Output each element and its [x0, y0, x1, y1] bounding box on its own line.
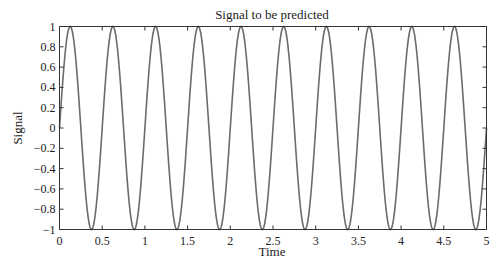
y-tick-label: 0.2	[41, 101, 56, 115]
x-tick-label: 5	[484, 234, 490, 248]
y-tick-label: −1	[43, 223, 56, 237]
x-tick-label: 3	[313, 234, 319, 248]
y-tick-label: 1	[50, 20, 56, 34]
y-tick-label: 0.8	[41, 40, 56, 54]
y-axis-label: Signal	[10, 111, 25, 145]
x-tick-label: 3.5	[351, 234, 366, 248]
y-tick-label: 0.6	[41, 60, 56, 74]
signal-line	[60, 27, 487, 230]
y-tick-label: −0.4	[34, 162, 56, 176]
y-tick-label: 0	[50, 121, 56, 135]
x-tick-label: 0	[57, 234, 63, 248]
x-axis-label: Time	[259, 244, 286, 259]
x-tick-label: 4.5	[436, 234, 451, 248]
x-tick-label: 4	[398, 234, 404, 248]
y-tick-label: 0.4	[41, 80, 56, 94]
x-tick-label: 2	[227, 234, 233, 248]
plot-area	[60, 27, 487, 230]
x-tick-label: 1.5	[180, 234, 195, 248]
y-tick-label: −0.2	[34, 141, 56, 155]
y-tick-label: −0.8	[34, 202, 56, 216]
x-tick-label: 1	[142, 234, 148, 248]
y-tick-label: −0.6	[34, 182, 56, 196]
chart-title: Signal to be predicted	[215, 7, 329, 22]
signal-chart: Signal to be predicted 00.511.522.533.54…	[0, 0, 502, 267]
x-tick-label: 0.5	[95, 234, 110, 248]
